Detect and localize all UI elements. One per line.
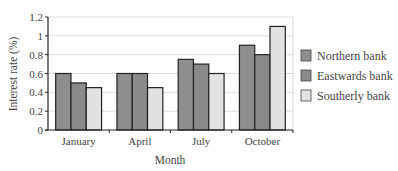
bar: [239, 45, 254, 130]
bar: [148, 88, 163, 130]
bar: [255, 55, 270, 130]
y-tick-label: 1.2: [29, 11, 43, 23]
x-tick-labels: JanuaryAprilJulyOctober: [62, 135, 281, 147]
bar: [117, 74, 132, 131]
y-tick-label: 0.8: [29, 49, 43, 61]
x-tick-label: January: [62, 135, 97, 147]
bar: [132, 74, 147, 131]
bar: [193, 64, 208, 130]
legend: Northern bankEastwards bankSoutherly ban…: [301, 49, 393, 103]
bars: [56, 26, 286, 130]
x-axis-title: Month: [155, 154, 186, 166]
bar: [56, 74, 71, 131]
y-tick-label: 0: [38, 124, 44, 136]
y-tick-label: 1: [38, 30, 44, 42]
legend-swatch: [301, 90, 311, 101]
legend-swatch: [301, 70, 311, 81]
x-tick-label: July: [192, 135, 211, 147]
bar: [71, 83, 86, 130]
bar: [86, 88, 101, 130]
bar-chart: 00.20.40.60.811.2 JanuaryAprilJulyOctobe…: [0, 0, 398, 171]
bar: [178, 59, 193, 130]
y-axis-title: Interest rate (%): [7, 36, 20, 111]
bar: [209, 74, 224, 131]
bar: [270, 26, 285, 130]
legend-label: Southerly bank: [317, 89, 390, 103]
y-tick-label: 0.4: [29, 86, 43, 98]
legend-label: Northern bank: [317, 49, 387, 63]
x-tick-label: April: [128, 135, 151, 147]
y-tick-label: 0.2: [29, 105, 43, 117]
y-tick-labels: 00.20.40.60.811.2: [29, 11, 43, 136]
y-tick-label: 0.6: [29, 68, 43, 80]
legend-label: Eastwards bank: [317, 69, 393, 83]
legend-swatch: [301, 50, 311, 61]
x-tick-label: October: [245, 135, 281, 147]
